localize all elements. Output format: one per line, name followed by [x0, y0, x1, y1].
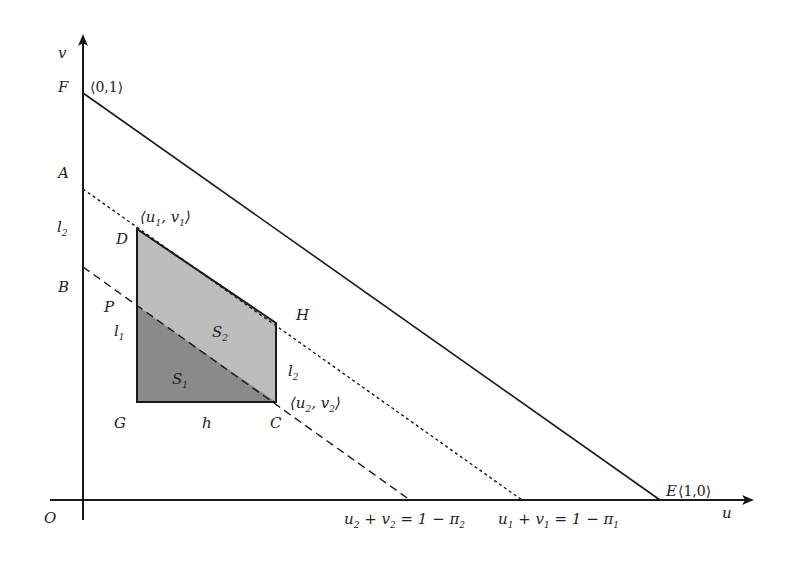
point-e-coord: ⟨1,0⟩	[678, 483, 711, 499]
dotted-line-equation: u1 + v1 = 1 − π1	[498, 510, 619, 530]
point-d-label: D	[115, 230, 128, 248]
point-f-coord: ⟨0,1⟩	[90, 79, 123, 95]
point-f-label: F	[57, 78, 69, 96]
point-c-coord: ⟨u2, v2⟩	[290, 394, 341, 414]
point-h-label: H	[295, 306, 310, 324]
v-axis-label: v	[58, 44, 67, 62]
segment-h-bottom: h	[202, 414, 212, 432]
dashed-line-equation: u2 + v2 = 1 − π2	[344, 510, 465, 530]
origin-label: O	[44, 509, 56, 527]
segment-l1-left: l1	[114, 322, 125, 342]
segment-l2-left: l2	[57, 218, 68, 238]
point-p-label: P	[103, 298, 115, 316]
segment-l2-right: l2	[288, 362, 299, 382]
diagram-canvas: v u O F ⟨0,1⟩ A B D P H G C E ⟨1,0⟩ ⟨u1,…	[0, 0, 790, 562]
point-g-label: G	[114, 414, 126, 432]
point-e-label: E	[665, 482, 677, 500]
point-d-coord: ⟨u1, v1⟩	[140, 208, 191, 228]
u-axis-label: u	[722, 504, 732, 522]
point-c-label: C	[270, 414, 282, 432]
point-b-label: B	[57, 278, 69, 296]
point-a-label: A	[56, 164, 69, 182]
